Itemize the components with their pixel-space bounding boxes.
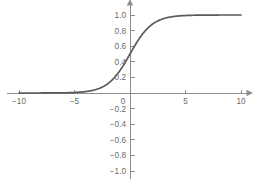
x-tick-label: 10 bbox=[236, 97, 246, 106]
y-tick-label: 1.0 bbox=[115, 11, 127, 20]
chart-canvas: −10−50510 1.00.80.60.40.2−0.2−0.4−0.6−0.… bbox=[0, 0, 253, 183]
sigmoid-chart-figure: −10−50510 1.00.80.60.40.2−0.2−0.4−0.6−0.… bbox=[0, 0, 253, 183]
x-tick-label: −5 bbox=[70, 97, 80, 106]
y-tick-label: −0.6 bbox=[110, 136, 127, 145]
y-tick-label: −0.4 bbox=[110, 120, 127, 129]
x-tick-label: −10 bbox=[12, 97, 26, 106]
y-tick-label: −0.2 bbox=[110, 105, 127, 114]
y-tick-label: 0.4 bbox=[115, 58, 127, 67]
y-tick-label: 0.8 bbox=[115, 27, 127, 36]
chart-background bbox=[0, 0, 253, 183]
y-tick-label: 0.2 bbox=[115, 73, 127, 82]
y-tick-label: 0.6 bbox=[115, 42, 127, 51]
y-tick-label: −0.8 bbox=[110, 151, 127, 160]
y-tick-label: −1.0 bbox=[110, 167, 127, 176]
x-tick-label: 5 bbox=[183, 97, 188, 106]
